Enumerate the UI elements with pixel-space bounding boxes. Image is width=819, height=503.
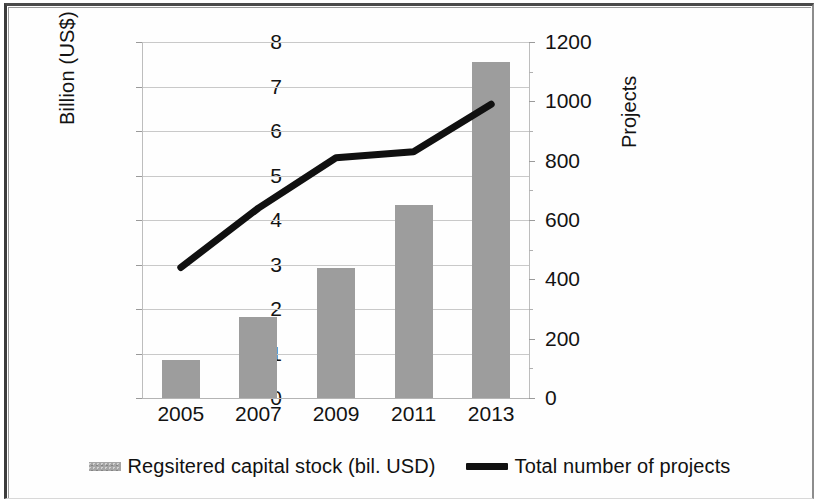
chart-figure: Billion (US$) Projects 876543210 1200100… xyxy=(0,0,819,503)
y-tick-label-right: 1000 xyxy=(545,90,592,111)
y-tick-label-right: 600 xyxy=(545,209,580,230)
y-tick-label-right: 200 xyxy=(545,328,580,349)
legend-label-bar: Regsitered capital stock (bil. USD) xyxy=(128,455,436,478)
y-axis-tick-left xyxy=(136,398,142,399)
y-tick-label-right: 800 xyxy=(545,150,580,171)
y-tick-label-right: 1200 xyxy=(545,31,592,52)
legend-item-line: Total number of projects xyxy=(466,455,731,478)
chart-legend: Regsitered capital stock (bil. USD) Tota… xyxy=(0,455,819,478)
x-tick-label: 2005 xyxy=(141,403,221,424)
y-axis-title-left: Billion (US$) xyxy=(56,0,79,125)
y-tick-label-right: 400 xyxy=(545,268,580,289)
x-tick-label: 2013 xyxy=(451,403,531,424)
y-tick-label-right: 0 xyxy=(545,387,557,408)
plot-area xyxy=(142,42,530,398)
gridline xyxy=(142,398,530,399)
y-axis-title-right: Projects xyxy=(618,0,641,148)
line-series-svg xyxy=(142,42,530,398)
line-swatch-icon xyxy=(466,463,508,470)
bar-swatch-icon xyxy=(89,462,121,471)
line-series xyxy=(142,42,530,398)
legend-label-line: Total number of projects xyxy=(515,455,731,478)
legend-item-bar: Regsitered capital stock (bil. USD) xyxy=(89,455,436,478)
y-axis-tick-right xyxy=(529,398,535,399)
x-tick-label: 2011 xyxy=(374,403,454,424)
x-tick-label: 2009 xyxy=(296,403,376,424)
x-tick-label: 2007 xyxy=(218,403,298,424)
